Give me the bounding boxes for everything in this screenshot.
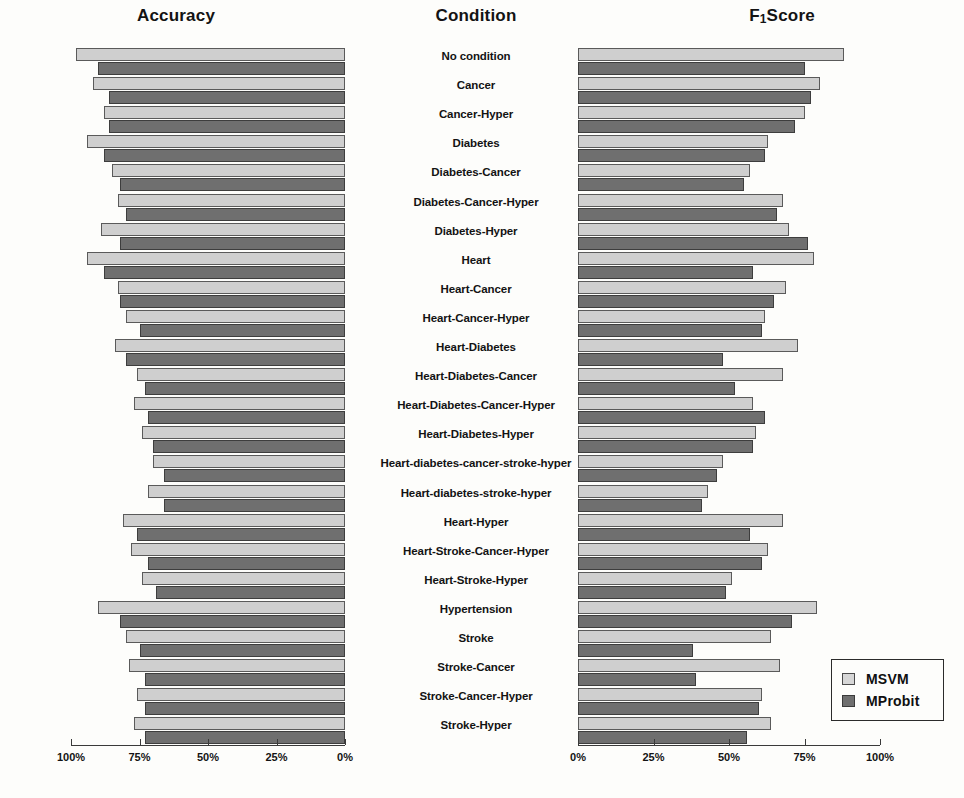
- bar-mprobit: [578, 499, 702, 512]
- bar-msvm: [578, 77, 820, 90]
- bar-msvm: [578, 717, 771, 730]
- bar-mprobit: [578, 353, 723, 366]
- bar-mprobit: [126, 353, 345, 366]
- bar-msvm: [76, 48, 345, 61]
- f1-title-rest: Score: [767, 6, 815, 25]
- bar-msvm: [578, 194, 783, 207]
- bar-msvm: [104, 106, 345, 119]
- bar-msvm: [578, 572, 732, 585]
- accuracy-panel-title: Accuracy: [0, 6, 352, 26]
- condition-label: Cancer: [352, 79, 600, 91]
- x-axis-tick: [654, 739, 655, 745]
- bar-msvm: [134, 397, 345, 410]
- bar-msvm: [578, 630, 771, 643]
- bar-mprobit: [156, 586, 345, 599]
- bar-mprobit: [98, 62, 345, 75]
- bar-mprobit: [140, 324, 346, 337]
- bar-msvm: [578, 310, 765, 323]
- condition-label: Heart-Hyper: [352, 516, 600, 528]
- bar-msvm: [578, 368, 783, 381]
- condition-label: Heart-Stroke-Cancer-Hyper: [352, 545, 600, 557]
- x-axis-tick: [345, 739, 346, 745]
- bar-mprobit: [578, 295, 774, 308]
- bar-mprobit: [145, 731, 345, 744]
- bar-msvm: [578, 223, 789, 236]
- legend-label-mprobit: MProbit: [866, 693, 920, 709]
- bar-msvm: [142, 572, 345, 585]
- chart-legend: MSVM MProbit: [831, 659, 944, 721]
- bar-msvm: [129, 659, 345, 672]
- x-axis-tick: [578, 739, 579, 745]
- bar-mprobit: [578, 557, 762, 570]
- condition-label: Stroke: [352, 632, 600, 644]
- legend-item-mprobit: MProbit: [842, 690, 943, 712]
- bar-mprobit: [578, 62, 805, 75]
- condition-label: Diabetes: [352, 137, 600, 149]
- bar-msvm: [137, 688, 345, 701]
- bar-mprobit: [137, 528, 345, 541]
- condition-label-column: Condition No conditionCancerCancer-Hyper…: [352, 0, 600, 798]
- bar-msvm: [578, 688, 762, 701]
- bar-msvm: [101, 223, 345, 236]
- condition-label: Stroke-Cancer: [352, 661, 600, 673]
- bar-mprobit: [145, 673, 345, 686]
- x-axis-tick: [208, 739, 209, 745]
- x-axis-line: [578, 745, 880, 746]
- condition-column-title: Condition: [352, 6, 600, 26]
- bar-msvm: [142, 426, 345, 439]
- legend-swatch-msvm: [842, 673, 855, 685]
- bar-mprobit: [120, 295, 345, 308]
- condition-label: Diabetes-Cancer: [352, 166, 600, 178]
- bar-msvm: [153, 455, 345, 468]
- bar-mprobit: [578, 91, 811, 104]
- bar-mprobit: [578, 644, 693, 657]
- bar-msvm: [93, 77, 345, 90]
- bar-msvm: [87, 252, 345, 265]
- bar-mprobit: [126, 208, 345, 221]
- bar-msvm: [148, 485, 345, 498]
- bar-msvm: [126, 310, 345, 323]
- x-axis-tick: [140, 739, 141, 745]
- x-axis-tick: [729, 739, 730, 745]
- f1-title-subscript: 1: [760, 12, 767, 26]
- bar-msvm: [578, 543, 768, 556]
- bar-mprobit: [578, 382, 735, 395]
- condition-label: Diabetes-Hyper: [352, 225, 600, 237]
- bar-msvm: [134, 717, 345, 730]
- x-axis-line: [71, 745, 345, 746]
- bar-mprobit: [120, 237, 345, 250]
- x-axis-tick-label: 25%: [265, 751, 287, 763]
- bar-msvm: [578, 106, 805, 119]
- bar-msvm: [578, 485, 708, 498]
- x-axis-tick-label: 75%: [128, 751, 150, 763]
- bar-msvm: [578, 135, 768, 148]
- bar-mprobit: [140, 644, 346, 657]
- bar-msvm: [578, 281, 786, 294]
- condition-label: Heart-diabetes-stroke-hyper: [352, 487, 600, 499]
- bar-mprobit: [109, 91, 345, 104]
- condition-label: Heart-Cancer: [352, 283, 600, 295]
- bar-msvm: [87, 135, 345, 148]
- f1score-panel-title: F1Score: [600, 6, 964, 26]
- x-axis-tick-label: 75%: [793, 751, 815, 763]
- bar-msvm: [578, 426, 756, 439]
- bar-msvm: [578, 397, 753, 410]
- bar-mprobit: [578, 120, 795, 133]
- bar-mprobit: [164, 469, 345, 482]
- bar-mprobit: [148, 557, 345, 570]
- condition-label: Heart-diabetes-cancer-stroke-hyper: [352, 457, 600, 469]
- bar-mprobit: [578, 702, 759, 715]
- condition-label: Hypertension: [352, 603, 600, 615]
- condition-label: Stroke-Cancer-Hyper: [352, 690, 600, 702]
- bar-mprobit: [578, 411, 765, 424]
- x-axis-tick-label: 0%: [337, 751, 353, 763]
- bar-mprobit: [578, 673, 696, 686]
- condition-label: Cancer-Hyper: [352, 108, 600, 120]
- bar-mprobit: [120, 615, 345, 628]
- condition-label: Heart-Diabetes-Cancer: [352, 370, 600, 382]
- bar-mprobit: [104, 266, 345, 279]
- bar-mprobit: [120, 178, 345, 191]
- bar-mprobit: [578, 237, 808, 250]
- condition-label: Diabetes-Cancer-Hyper: [352, 196, 600, 208]
- x-axis-tick-label: 100%: [866, 751, 894, 763]
